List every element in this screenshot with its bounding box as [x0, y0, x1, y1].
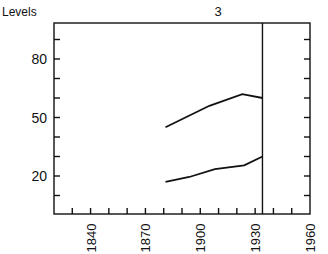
x-tick-label: 1930 [248, 224, 263, 253]
y-axis-label: Levels [2, 5, 37, 19]
series-lines [166, 94, 263, 182]
series-upper-line [166, 94, 263, 127]
y-tick-label: 20 [31, 168, 47, 184]
x-tick-label: 1870 [138, 224, 153, 253]
chart-title: 3 [214, 4, 221, 19]
line-chart: Levels 3 205080 18401870190019301960 [0, 0, 328, 254]
series-lower-line [166, 157, 263, 182]
x-tick-label: 1900 [193, 224, 208, 253]
x-tick-label: 1960 [303, 224, 318, 253]
x-tick-label: 1840 [84, 224, 99, 253]
y-tick-label: 80 [31, 51, 47, 67]
y-tick-label: 50 [31, 110, 47, 126]
y-axis: 205080 [31, 40, 310, 196]
